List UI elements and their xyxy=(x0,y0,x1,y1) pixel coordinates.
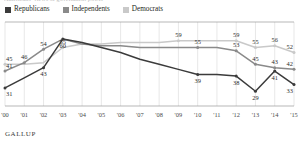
clipped-title: Americans' views of government power xyxy=(4,0,194,3)
x-tick-09: '09 xyxy=(175,112,183,118)
x-tick-15: '15 xyxy=(290,112,298,118)
chart-legend: Republicans Independents Democrats xyxy=(5,6,163,13)
line-chart-svg: 4555595955565241465455534543423143603938… xyxy=(0,20,301,112)
value-label: 39 xyxy=(194,77,200,84)
value-label: 45 xyxy=(252,55,258,62)
x-tick-00: '00 xyxy=(1,112,9,118)
data-point-independents-'14 xyxy=(273,66,276,69)
x-tick-07: '07 xyxy=(136,112,144,118)
legend-item-democrats[interactable]: Democrats xyxy=(123,6,163,13)
value-label: 60 xyxy=(60,42,66,49)
x-tick-08: '08 xyxy=(155,112,163,118)
value-label: 43 xyxy=(272,58,278,65)
value-label: 59 xyxy=(233,31,239,38)
value-label: 55 xyxy=(194,38,200,45)
value-label: 59 xyxy=(175,31,181,38)
value-label: 53 xyxy=(233,41,239,48)
plot-area: 4555595955565241465455534543423143603938… xyxy=(0,20,301,112)
data-point-independents-'12 xyxy=(235,49,238,52)
value-label: 52 xyxy=(287,43,293,50)
value-label: 56 xyxy=(272,36,278,43)
x-tick-01: '01 xyxy=(20,112,28,118)
data-point-republicans-'12 xyxy=(235,75,238,78)
value-label: 29 xyxy=(252,94,258,101)
legend-label-republicans: Republicans xyxy=(14,6,50,13)
data-point-independents-'01 xyxy=(23,61,26,64)
x-tick-10: '10 xyxy=(194,112,202,118)
legend-item-republicans[interactable]: Republicans xyxy=(5,6,50,13)
x-tick-13: '13 xyxy=(252,112,260,118)
value-label: 38 xyxy=(233,79,239,86)
data-point-republicans-'10 xyxy=(196,73,199,76)
x-tick-02: '02 xyxy=(40,112,48,118)
data-point-republicans-'02 xyxy=(42,66,45,69)
value-label: 41 xyxy=(272,74,278,81)
legend-swatch-democrats xyxy=(123,7,129,13)
value-label: 43 xyxy=(40,70,46,77)
gallup-brand: GALLUP xyxy=(5,130,36,138)
data-point-independents-'02 xyxy=(42,48,45,51)
x-tick-03: '03 xyxy=(59,112,67,118)
value-label: 46 xyxy=(21,53,27,60)
series-line-independents xyxy=(5,39,294,71)
value-label: 31 xyxy=(6,90,12,97)
legend-swatch-republicans xyxy=(5,7,11,13)
x-axis-tick-labels: '00'01'02'03'04'05'06'07'08'09'10'11'12'… xyxy=(0,112,301,124)
x-tick-11: '11 xyxy=(213,112,220,118)
data-point-democrats-'15 xyxy=(293,51,296,54)
data-point-republicans-'00 xyxy=(4,86,7,89)
data-point-republicans-'14 xyxy=(273,70,276,73)
value-label: 42 xyxy=(287,60,293,67)
data-point-independents-'00 xyxy=(4,70,7,73)
x-tick-05: '05 xyxy=(98,112,106,118)
legend-item-independents[interactable]: Independents xyxy=(63,6,110,13)
data-point-democrats-'14 xyxy=(273,44,276,47)
x-tick-06: '06 xyxy=(117,112,125,118)
legend-label-democrats: Democrats xyxy=(132,6,163,13)
legend-swatch-independents xyxy=(63,7,69,13)
value-label: 33 xyxy=(287,87,293,94)
chart-root: Americans' views of government power Rep… xyxy=(0,0,301,147)
data-point-democrats-'09 xyxy=(177,39,180,42)
value-label: 55 xyxy=(252,38,258,45)
value-label: 54 xyxy=(40,40,47,47)
value-label: 41 xyxy=(6,62,12,69)
data-point-independents-'13 xyxy=(254,63,257,66)
data-point-independents-'15 xyxy=(293,68,296,71)
x-tick-04: '04 xyxy=(78,112,86,118)
data-point-democrats-'13 xyxy=(254,46,257,49)
legend-label-independents: Independents xyxy=(72,6,110,13)
data-point-independents-'10 xyxy=(196,46,199,49)
x-tick-14: '14 xyxy=(271,112,279,118)
data-point-republicans-'13 xyxy=(254,90,257,93)
data-point-republicans-'15 xyxy=(293,83,296,86)
x-tick-12: '12 xyxy=(232,112,240,118)
